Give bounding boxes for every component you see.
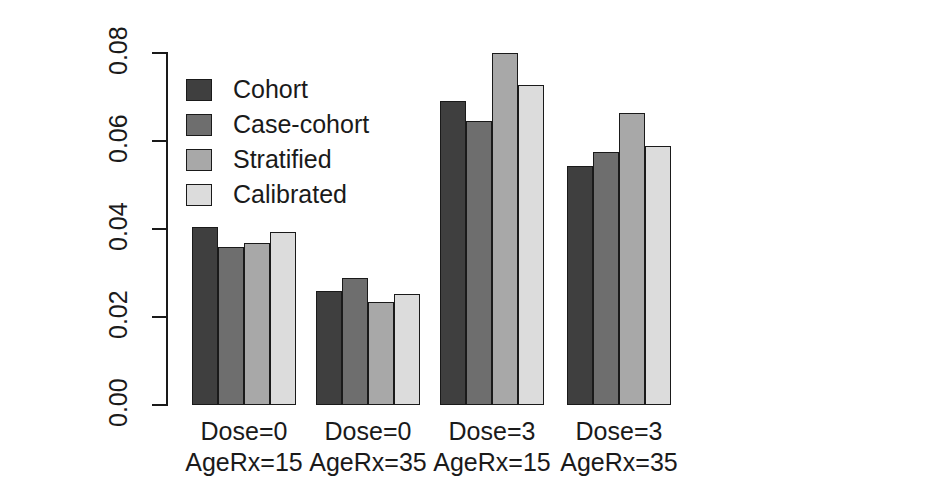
- bar: [316, 291, 342, 405]
- legend-item: Case-cohort: [186, 107, 446, 142]
- legend-swatch-icon: [186, 114, 212, 136]
- bar: [342, 278, 368, 405]
- y-axis-tick-label: 0.02: [96, 295, 140, 339]
- y-axis-tick-label: 0.00: [96, 383, 140, 427]
- bar: [394, 294, 420, 405]
- legend-item: Calibrated: [186, 177, 446, 212]
- bar: [244, 243, 270, 405]
- legend-swatch-icon: [186, 149, 212, 171]
- legend-label: Calibrated: [233, 180, 347, 209]
- legend-item: Cohort: [186, 72, 446, 107]
- y-axis-tick: [152, 404, 168, 406]
- y-axis-tick: [152, 52, 168, 54]
- bar: [270, 232, 296, 405]
- bar: [368, 302, 394, 405]
- bar: [466, 121, 492, 405]
- y-axis-tick: [152, 316, 168, 318]
- bar: [593, 152, 619, 405]
- legend-label: Stratified: [233, 145, 332, 174]
- bar: [492, 53, 518, 405]
- legend-label: Cohort: [233, 75, 308, 104]
- legend-swatch-icon: [186, 184, 212, 206]
- bar: [619, 113, 645, 405]
- bar: [192, 227, 218, 405]
- y-axis-tick-label: 0.04: [96, 207, 140, 251]
- bar-chart-figure: Cumulative hazard ages 40-60 yrs 0.000.0…: [0, 0, 943, 504]
- bar: [218, 247, 244, 405]
- legend-swatch-icon: [186, 79, 212, 101]
- bar: [645, 146, 671, 405]
- y-axis-tick-label: 0.06: [96, 119, 140, 163]
- y-axis-tick: [152, 140, 168, 142]
- x-axis-label-agerx: AgeRx=35: [519, 447, 719, 478]
- legend-item: Stratified: [186, 142, 446, 177]
- legend-label: Case-cohort: [233, 110, 369, 139]
- x-axis-group-label: Dose=3AgeRx=35: [519, 416, 719, 478]
- bar: [567, 166, 593, 405]
- bar: [518, 85, 544, 405]
- chart-legend: CohortCase-cohortStratifiedCalibrated: [186, 72, 446, 212]
- x-axis-label-dose: Dose=3: [519, 416, 719, 447]
- y-axis-tick-label: 0.08: [96, 31, 140, 75]
- y-axis-tick: [152, 228, 168, 230]
